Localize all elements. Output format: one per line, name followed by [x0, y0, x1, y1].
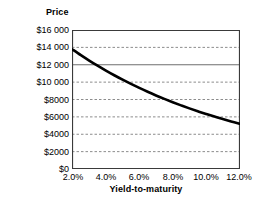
x-tick-label: 6.0% [129, 172, 150, 182]
plot-svg [72, 30, 240, 169]
x-tick-label: 2.0% [63, 172, 84, 182]
x-axis-title: Yield-to-maturity [0, 184, 262, 194]
x-tick-label: 4.0% [96, 172, 117, 182]
y-tick-label: $0 [0, 165, 69, 174]
x-tick-label: 10.0% [193, 172, 219, 182]
chart-figure: Price $16 000 $14 000 $12 000 $10 000 $8… [0, 0, 262, 212]
y-tick-label: $8000 [0, 96, 69, 105]
y-tick-label: $10 000 [0, 78, 69, 87]
y-tick-label: $2000 [0, 148, 69, 157]
plot-area [72, 30, 240, 169]
x-tick-label: 12.0% [226, 172, 252, 182]
gridlines-horizontal [72, 47, 240, 151]
y-tick-label: $14 000 [0, 43, 69, 52]
y-tick-label: $12 000 [0, 61, 69, 70]
x-axis-title-text: Yield-to-maturity [110, 184, 183, 194]
y-tick-label: $6000 [0, 113, 69, 122]
y-tick-label: $16 000 [0, 26, 69, 35]
x-tick-label: 8.0% [163, 172, 184, 182]
axis-frame [72, 30, 240, 169]
price-yield-curve [73, 49, 240, 123]
y-tick-label: $4000 [0, 130, 69, 139]
y-axis-title: Price [46, 7, 69, 17]
y-axis-tick-labels: $16 000 $14 000 $12 000 $10 000 $8000 $6… [0, 30, 69, 169]
